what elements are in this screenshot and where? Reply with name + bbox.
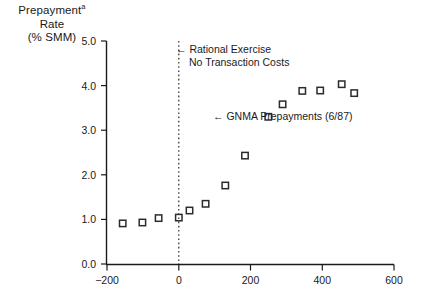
x-tick-label-200: 200	[231, 274, 271, 286]
data-point	[339, 81, 345, 87]
data-point	[120, 220, 126, 226]
y-axis-label-line1: Prepaymenta	[2, 4, 102, 18]
y-axis-ticks	[101, 41, 107, 264]
data-point	[186, 207, 192, 213]
x-axis-ticks	[107, 265, 394, 271]
y-axis-label-text: Prepayment	[18, 4, 81, 16]
data-point	[351, 90, 357, 96]
data-point	[242, 152, 248, 158]
y-tick-label-4: 4.0	[62, 80, 96, 92]
annotation-rational-exercise: ← Rational Exercise No Transaction Costs	[176, 43, 289, 69]
y-tick-label-3: 3.0	[62, 124, 96, 136]
data-point	[317, 87, 323, 93]
y-tick-label-0: 0.0	[62, 258, 96, 270]
annotation-rational-exercise-line2: No Transaction Costs	[176, 56, 289, 69]
data-point	[299, 88, 305, 94]
y-tick-label-2: 2.0	[62, 169, 96, 181]
annotation-rational-exercise-line1: ← Rational Exercise	[176, 43, 289, 56]
data-point	[139, 219, 145, 225]
data-points-group	[120, 81, 358, 227]
y-axis-label-line2: Rate	[2, 18, 102, 32]
data-point	[155, 215, 161, 221]
x-tick-label-600: 600	[374, 274, 414, 286]
annotation-gnma-prepayments: ← GNMA Prepayments (6/87)	[213, 110, 352, 123]
x-tick-label-400: 400	[302, 274, 342, 286]
y-tick-label-1: 1.0	[62, 213, 96, 225]
y-axis-label-superscript: a	[81, 2, 85, 11]
chart-figure: Prepaymenta Rate (% SMM)	[0, 0, 425, 296]
data-point	[279, 101, 285, 107]
y-tick-label-5: 5.0	[62, 35, 96, 47]
x-tick-label--200: −200	[87, 274, 127, 286]
data-point	[202, 201, 208, 207]
axes-group	[106, 41, 394, 265]
x-tick-label-0: 0	[159, 274, 199, 286]
data-point	[222, 182, 228, 188]
